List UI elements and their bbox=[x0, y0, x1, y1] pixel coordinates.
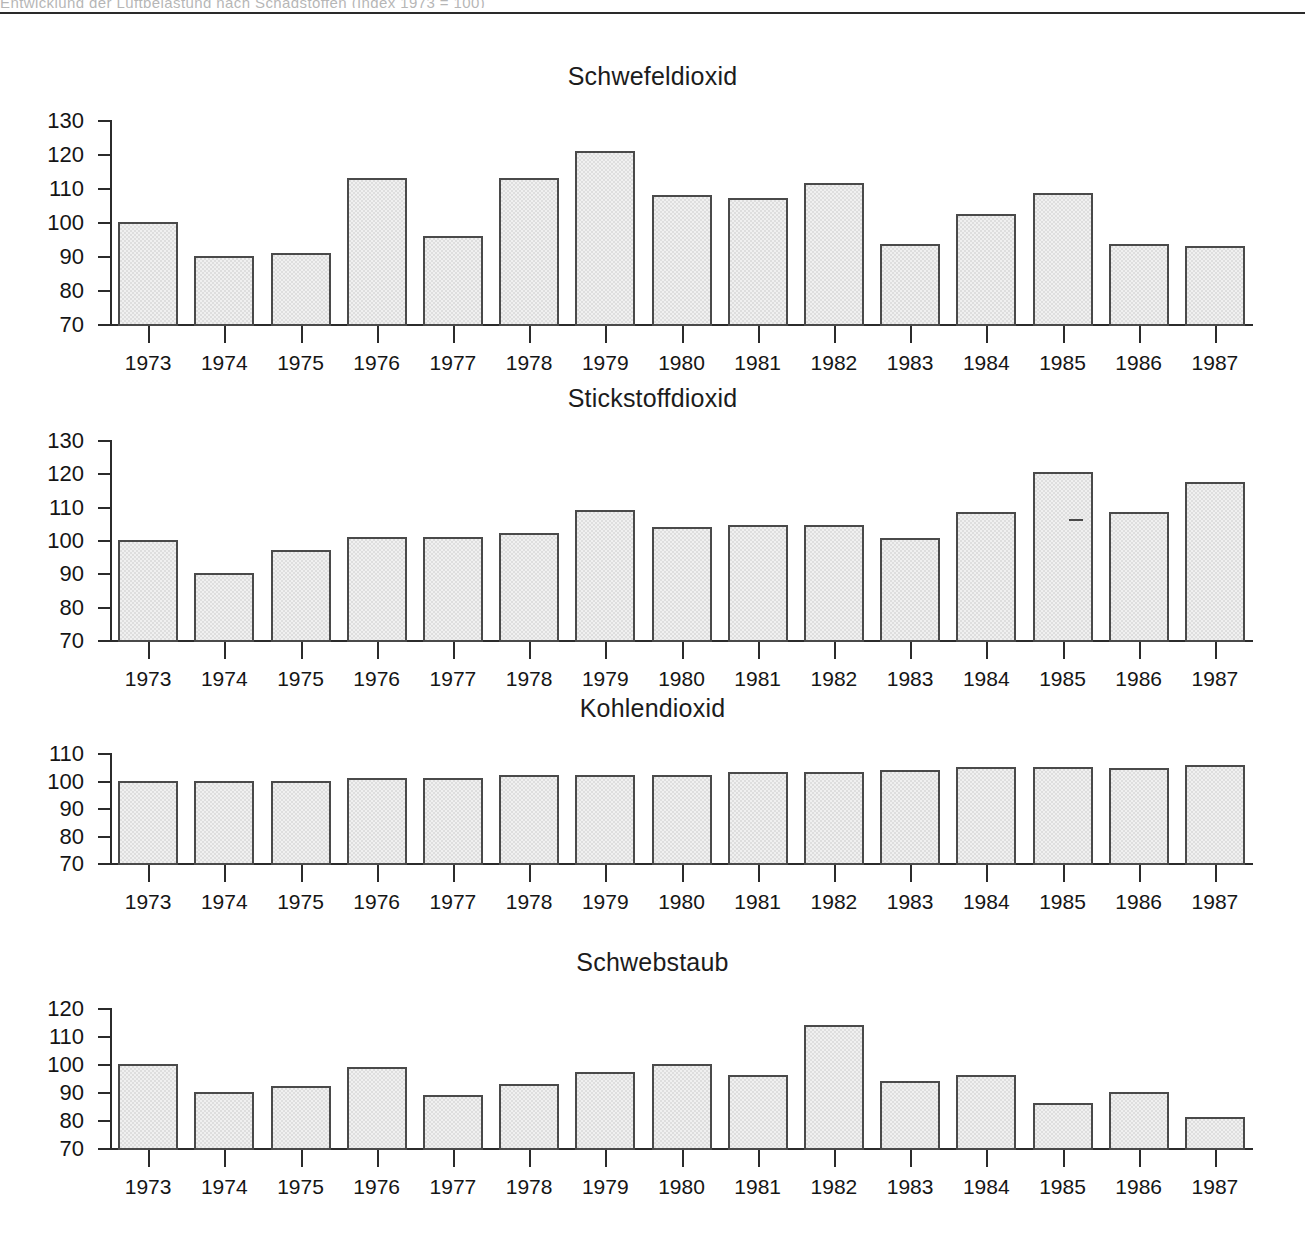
x-axis-label: 1977 bbox=[413, 668, 493, 689]
y-axis-tick bbox=[98, 640, 110, 642]
x-axis-tick bbox=[453, 1150, 455, 1167]
y-axis-label: 110 bbox=[38, 743, 84, 765]
bar bbox=[194, 1092, 254, 1150]
y-axis-label: 90 bbox=[38, 1082, 84, 1104]
x-axis-tick bbox=[301, 326, 303, 343]
bar bbox=[499, 1084, 559, 1150]
bar bbox=[956, 1075, 1016, 1150]
y-axis-tick bbox=[98, 290, 110, 292]
y-axis-label: 70 bbox=[38, 630, 84, 652]
bar bbox=[804, 772, 864, 865]
x-axis-tick bbox=[910, 326, 912, 343]
bar bbox=[194, 573, 254, 642]
y-axis-tick bbox=[98, 1148, 110, 1150]
bar bbox=[423, 236, 483, 326]
bar bbox=[1185, 482, 1245, 642]
bar bbox=[423, 537, 483, 642]
bar bbox=[1109, 244, 1169, 326]
x-axis-tick bbox=[148, 642, 150, 659]
x-axis-tick bbox=[1215, 865, 1217, 882]
x-axis-label: 1987 bbox=[1175, 352, 1255, 373]
x-axis-label: 1980 bbox=[642, 668, 722, 689]
x-axis-tick bbox=[529, 642, 531, 659]
y-axis-tick bbox=[98, 863, 110, 865]
y-axis-label: 80 bbox=[38, 597, 84, 619]
x-axis-tick bbox=[986, 326, 988, 343]
x-axis-label: 1984 bbox=[946, 352, 1026, 373]
x-axis-tick bbox=[529, 326, 531, 343]
y-axis-label: 110 bbox=[38, 497, 84, 519]
x-axis-tick bbox=[529, 1150, 531, 1167]
x-axis-tick bbox=[758, 326, 760, 343]
y-axis-tick bbox=[98, 607, 110, 609]
x-axis-tick bbox=[1215, 326, 1217, 343]
y-axis-tick bbox=[98, 781, 110, 783]
y-axis-label: 120 bbox=[38, 998, 84, 1020]
y-axis-label: 110 bbox=[38, 178, 84, 200]
x-axis-label: 1975 bbox=[261, 352, 341, 373]
x-axis-label: 1981 bbox=[718, 352, 798, 373]
x-axis-tick bbox=[377, 1150, 379, 1167]
bar bbox=[118, 781, 178, 866]
x-axis-tick bbox=[224, 865, 226, 882]
y-axis-label: 70 bbox=[38, 1138, 84, 1160]
bar bbox=[347, 537, 407, 642]
plot-area: 7080901001101201301973197419751976197719… bbox=[0, 384, 1305, 710]
x-axis-tick bbox=[605, 326, 607, 343]
bar bbox=[1185, 765, 1245, 865]
bar bbox=[1185, 246, 1245, 326]
x-axis-tick bbox=[986, 642, 988, 659]
chart-panel-2: Stickstoffdioxid708090100110120130197319… bbox=[0, 384, 1305, 710]
x-axis-tick bbox=[1063, 865, 1065, 882]
x-axis-label: 1985 bbox=[1023, 891, 1103, 912]
y-axis-tick bbox=[98, 324, 110, 326]
y-axis-tick bbox=[98, 256, 110, 258]
plot-area: 7080901001101201973197419751976197719781… bbox=[0, 948, 1305, 1218]
x-axis-tick bbox=[605, 1150, 607, 1167]
x-axis-label: 1974 bbox=[184, 668, 264, 689]
y-axis-tick bbox=[98, 753, 110, 755]
x-axis-tick bbox=[682, 642, 684, 659]
x-axis-label: 1978 bbox=[489, 352, 569, 373]
bar bbox=[652, 1064, 712, 1150]
x-axis-tick bbox=[301, 1150, 303, 1167]
y-axis-label: 80 bbox=[38, 826, 84, 848]
bar bbox=[575, 1072, 635, 1150]
bar bbox=[728, 1075, 788, 1150]
x-axis-label: 1985 bbox=[1023, 668, 1103, 689]
bar bbox=[118, 540, 178, 642]
x-axis-tick bbox=[148, 1150, 150, 1167]
y-axis-tick bbox=[98, 573, 110, 575]
x-axis-label: 1986 bbox=[1099, 1176, 1179, 1197]
chart-panel-3: Kohlendioxid7080901001101973197419751976… bbox=[0, 694, 1305, 933]
x-axis-tick bbox=[910, 1150, 912, 1167]
x-axis-tick bbox=[529, 865, 531, 882]
bar bbox=[956, 767, 1016, 865]
x-axis-label: 1978 bbox=[489, 1176, 569, 1197]
bar bbox=[118, 222, 178, 326]
x-axis-label: 1975 bbox=[261, 668, 341, 689]
y-axis-tick bbox=[98, 1008, 110, 1010]
x-axis-label: 1985 bbox=[1023, 1176, 1103, 1197]
y-axis-line bbox=[110, 120, 112, 326]
y-axis-label: 70 bbox=[38, 853, 84, 875]
x-axis-tick bbox=[834, 326, 836, 343]
y-axis-label: 70 bbox=[38, 314, 84, 336]
y-axis-tick bbox=[98, 188, 110, 190]
x-axis-label: 1975 bbox=[261, 891, 341, 912]
x-axis-tick bbox=[1063, 642, 1065, 659]
bar bbox=[652, 195, 712, 326]
x-axis-tick bbox=[682, 1150, 684, 1167]
x-axis-label: 1979 bbox=[565, 668, 645, 689]
x-axis-label: 1978 bbox=[489, 891, 569, 912]
x-axis-label: 1974 bbox=[184, 891, 264, 912]
chart-panel-4: Schwebstaub70809010011012019731974197519… bbox=[0, 948, 1305, 1218]
chart-panel-1: Schwefeldioxid70809010011012013019731974… bbox=[0, 62, 1305, 394]
bar bbox=[423, 778, 483, 865]
y-axis-label: 100 bbox=[38, 530, 84, 552]
bar bbox=[880, 1081, 940, 1150]
x-axis-tick bbox=[1139, 865, 1141, 882]
bar bbox=[499, 533, 559, 642]
y-axis-line bbox=[110, 1008, 112, 1150]
bar bbox=[271, 781, 331, 866]
